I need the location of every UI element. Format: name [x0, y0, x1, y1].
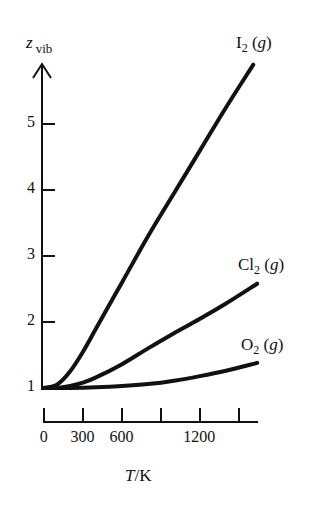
label-main: O: [241, 335, 253, 354]
series-label-i2: I2 (g): [236, 33, 272, 56]
x-axis-label: T/K: [125, 466, 151, 486]
y-tick-label: 4: [27, 179, 35, 197]
label-close: ): [278, 255, 284, 274]
y-axis-label: zvib: [26, 33, 52, 57]
y-tick-label: 1: [27, 377, 35, 395]
x-tick-label: 600: [109, 428, 133, 446]
label-phase: g: [269, 335, 278, 354]
y-axis-label-main: z: [26, 33, 33, 52]
y-tick-label: 2: [27, 311, 35, 329]
label-close: ): [266, 33, 272, 52]
x-tick-label: 1200: [183, 428, 215, 446]
x-axis-label-rest: /K: [134, 466, 151, 485]
y-axis-label-sub: vib: [36, 41, 53, 56]
series-label-o2: O2 (g): [241, 335, 283, 358]
label-main: Cl: [238, 255, 254, 274]
y-tick-label: 3: [27, 245, 35, 263]
label-open: (: [260, 255, 270, 274]
x-tick-label: 0: [40, 428, 48, 446]
x-tick-label: 300: [70, 428, 94, 446]
label-open: (: [259, 335, 269, 354]
y-tick-label: 5: [27, 113, 35, 131]
series-label-cl2: Cl2 (g): [238, 255, 284, 278]
label-close: ): [278, 335, 284, 354]
label-open: (: [248, 33, 258, 52]
curve-i2g: [44, 65, 253, 388]
label-phase: g: [258, 33, 267, 52]
curves: [44, 65, 257, 389]
